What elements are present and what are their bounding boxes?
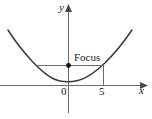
origin-label: 0 (61, 86, 67, 97)
y-axis-arrowhead (65, 4, 72, 12)
x-tick-label-5: 5 (99, 86, 105, 97)
y-axis-label: y (59, 2, 64, 13)
focus-point-marker (66, 63, 71, 68)
focus-label: Focus (74, 52, 100, 63)
x-axis-label: x (139, 85, 144, 96)
parabola-curve (8, 30, 132, 82)
parabola-figure: y x 0 5 Focus (0, 0, 152, 119)
